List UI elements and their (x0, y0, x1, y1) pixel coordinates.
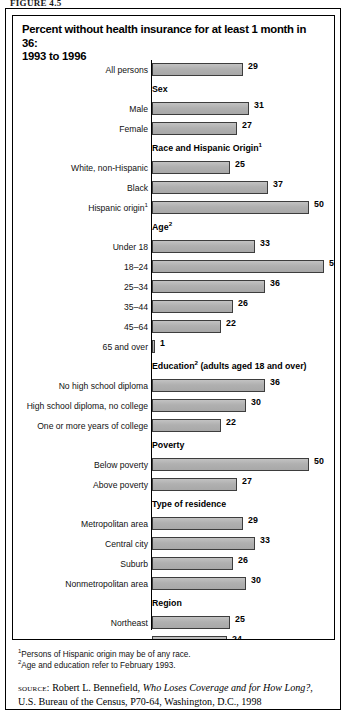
chart-bar-value: 30 (251, 574, 261, 587)
chart-bar-row: Nonmetropolitan area30 (13, 574, 334, 594)
chart-bar-row: One or more years of college22 (13, 416, 334, 436)
chart-bar (152, 340, 155, 353)
chart-category-label: Northeast (16, 613, 148, 633)
chart-bar (152, 122, 237, 135)
chart-category-label: 18–24 (16, 257, 148, 277)
chart-bar (152, 537, 255, 550)
chart-category-label: Female (16, 119, 148, 139)
chart-bar-fill (152, 201, 309, 214)
chart-category-label: Central city (16, 534, 148, 554)
chart-title-line-1: Percent without health insurance for at … (22, 23, 306, 49)
chart-bar-row: Black37 (13, 178, 334, 198)
chart-bar-row: Metropolitan area29 (13, 514, 334, 534)
chart-category-label: 65 and over (16, 337, 148, 357)
chart-bar-fill (152, 340, 155, 353)
chart-bar-fill (152, 379, 265, 392)
chart-bar-row: Suburb26 (13, 554, 334, 574)
chart-bar-value: 30 (251, 396, 261, 409)
chart-bar-value: 25 (235, 613, 245, 626)
chart-bar-row: 35–4426 (13, 297, 334, 317)
chart-bar-row: Above poverty27 (13, 475, 334, 495)
chart-bar (152, 240, 255, 253)
chart-bar-fill (152, 240, 255, 253)
chart-bar-value: 36 (270, 277, 280, 290)
chart-title: Percent without health insurance for at … (22, 23, 322, 64)
source-label: source: (18, 683, 50, 693)
footnote-marker: 1 (259, 141, 262, 148)
chart-bar-fill (152, 458, 309, 471)
chart-panel: Percent without health insurance for at … (12, 15, 335, 640)
chart-category-label: One or more years of college (16, 416, 148, 436)
chart-bar (152, 260, 324, 273)
chart-category-label: Metropolitan area (16, 514, 148, 534)
chart-bar-fill (152, 399, 246, 412)
chart-bar-fill (152, 320, 221, 333)
chart-category-label: 35–44 (16, 297, 148, 317)
chart-bar-value: 29 (248, 514, 258, 527)
chart-category-label: Above poverty (16, 475, 148, 495)
chart-category-label: All persons (16, 60, 148, 80)
chart-section-header-row: Type of residence (13, 495, 334, 514)
footnote-marker: 2 (169, 220, 172, 227)
chart-bar (152, 517, 243, 530)
chart-bar-fill (152, 63, 243, 76)
chart-bar-fill (152, 616, 230, 629)
chart-bar (152, 102, 249, 115)
footnote-item: 2Age and education refer to February 199… (18, 661, 328, 672)
chart-bar-fill (152, 557, 233, 570)
chart-bar (152, 577, 246, 590)
chart-bar (152, 458, 309, 471)
chart-bar (152, 63, 243, 76)
chart-bar-value: 27 (242, 475, 252, 488)
chart-bar (152, 201, 309, 214)
chart-bar-value: 36 (270, 376, 280, 389)
chart-section-header-row: Sex (13, 80, 334, 99)
chart-bar-row: Midwest24 (13, 633, 334, 640)
chart-bar-fill (152, 577, 246, 590)
chart-category-label: No high school diploma (16, 376, 148, 396)
chart-bar-value: 1 (160, 337, 165, 350)
chart-bar-row: Under 1833 (13, 237, 334, 257)
chart-bar-fill (152, 517, 243, 530)
chart-bar-value: 37 (273, 178, 283, 191)
chart-bar-row: High school diploma, no college30 (13, 396, 334, 416)
chart-bar-value: 55 (329, 257, 335, 270)
chart-bar (152, 478, 237, 491)
chart-bar-row: Northeast25 (13, 613, 334, 633)
footnotes-block: 1Persons of Hispanic origin may be of an… (18, 650, 328, 671)
footnote-marker: 2 (195, 359, 198, 366)
chart-plot-area: All persons29SexMale31Female27Race and H… (13, 60, 334, 640)
chart-bar-fill (152, 537, 255, 550)
chart-bar-row: Female27 (13, 119, 334, 139)
chart-bar-fill (152, 102, 249, 115)
chart-bar-value: 25 (235, 158, 245, 171)
chart-bar (152, 300, 233, 313)
chart-bar-row: White, non-Hispanic25 (13, 158, 334, 178)
chart-bar-fill (152, 300, 233, 313)
chart-bar-value: 22 (226, 416, 236, 429)
footnote-item: 1Persons of Hispanic origin may be of an… (18, 650, 328, 661)
chart-bar-value: 50 (314, 198, 324, 211)
figure-label: FIGURE 4.5 (10, 0, 62, 8)
chart-section-label: Race and Hispanic Origin1 (152, 142, 262, 155)
chart-bar (152, 379, 265, 392)
chart-bar (152, 181, 268, 194)
chart-bar-fill (152, 419, 221, 432)
chart-bar-row: Central city33 (13, 534, 334, 554)
chart-category-label: Black (16, 178, 148, 198)
chart-bar (152, 320, 221, 333)
footnote-marker: 1 (18, 648, 21, 654)
chart-section-header-row: Poverty (13, 436, 334, 455)
footnote-marker: 2 (18, 659, 21, 665)
chart-category-label: 25–34 (16, 277, 148, 297)
chart-category-label: Midwest (16, 633, 148, 640)
chart-bar-fill (152, 478, 237, 491)
chart-bar-row: 45–6422 (13, 317, 334, 337)
chart-bar-row: 18–2455 (13, 257, 334, 277)
chart-bar-value: 50 (314, 455, 324, 468)
chart-bar-row: Hispanic origin150 (13, 198, 334, 218)
chart-bar (152, 280, 265, 293)
chart-bar-fill (152, 181, 268, 194)
chart-section-label: Region (152, 597, 182, 610)
chart-bar-fill (152, 161, 230, 174)
